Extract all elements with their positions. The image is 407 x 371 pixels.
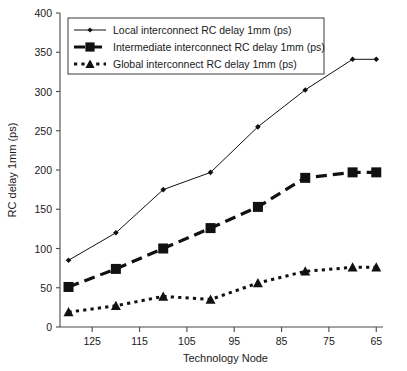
chart-legend: Local interconnect RC delay 1mm (ps)Inte…: [68, 18, 325, 74]
legend-item-label: Intermediate interconnect RC delay 1mm (…: [113, 41, 325, 53]
x-tick-label: 115: [131, 335, 148, 347]
data-point-marker: [158, 291, 168, 300]
data-point-marker: [348, 167, 358, 177]
x-tick-label: 85: [276, 335, 288, 347]
legend-item-label: Local interconnect RC delay 1mm (ps): [113, 24, 292, 36]
rc-delay-line-chart: 050100150200250300350400 125115105958575…: [0, 0, 407, 371]
legend-item-label: Global interconnect RC delay 1mm (ps): [113, 58, 297, 70]
x-axis-title: Technology Node: [183, 352, 268, 364]
data-point-marker: [206, 223, 216, 233]
y-tick-label: 300: [34, 86, 52, 98]
data-point-marker: [158, 244, 168, 254]
x-tick-label: 95: [228, 335, 240, 347]
x-axis-tick-group: 12511510595857565: [83, 327, 382, 347]
data-point-marker: [111, 264, 121, 274]
y-tick-label: 250: [34, 125, 52, 137]
data-point-marker: [111, 301, 121, 310]
data-point-marker: [371, 262, 381, 271]
y-tick-label: 400: [34, 7, 52, 19]
data-point-marker: [64, 307, 74, 316]
y-tick-label: 200: [34, 164, 52, 176]
y-axis-title: RC delay 1mm (ps): [6, 123, 18, 218]
x-tick-label: 105: [178, 335, 196, 347]
x-tick-label: 125: [83, 335, 101, 347]
series-line: [69, 59, 377, 260]
y-tick-label: 0: [46, 321, 52, 333]
data-point-marker: [253, 278, 263, 287]
y-tick-label: 100: [34, 243, 52, 255]
data-point-marker: [373, 57, 379, 63]
y-tick-label: 50: [40, 282, 52, 294]
legend-marker-swatch: [85, 42, 94, 51]
y-tick-label: 150: [34, 203, 52, 215]
chart-container: 050100150200250300350400 125115105958575…: [0, 0, 407, 371]
series-1: [66, 57, 379, 264]
data-point-marker: [371, 167, 381, 177]
y-tick-label: 350: [34, 46, 52, 58]
data-point-marker: [300, 173, 310, 183]
y-axis-tick-group: 050100150200250300350400: [34, 7, 60, 333]
series-group: [64, 57, 382, 317]
data-point-marker: [64, 282, 74, 292]
x-tick-label: 75: [323, 335, 335, 347]
series-2: [64, 167, 382, 292]
data-point-marker: [350, 57, 356, 63]
data-point-marker: [206, 295, 216, 304]
data-point-marker: [348, 262, 358, 271]
data-point-marker: [66, 257, 72, 263]
data-point-marker: [253, 202, 263, 212]
x-tick-label: 65: [370, 335, 382, 347]
